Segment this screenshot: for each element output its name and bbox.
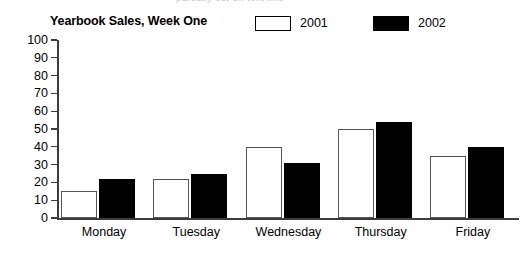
bar-wednesday-2002 xyxy=(284,163,320,218)
bar-friday-2002 xyxy=(468,147,504,218)
bar-tuesday-2002 xyxy=(191,174,227,219)
bar-wednesday-2001 xyxy=(246,147,282,218)
bar-friday-2001 xyxy=(430,156,466,218)
plot-area: 1009080706050403020100 MondayTuesdayWedn… xyxy=(0,0,526,268)
bar-tuesday-2001 xyxy=(153,179,189,218)
bar-chart: partially cut-off text line Yearbook Sal… xyxy=(0,0,526,268)
bar-monday-2002 xyxy=(99,179,135,218)
bar-monday-2001 xyxy=(61,191,97,218)
category-label-wednesday: Wednesday xyxy=(242,225,334,239)
category-label-friday: Friday xyxy=(427,225,519,239)
category-label-tuesday: Tuesday xyxy=(150,225,242,239)
bar-thursday-2001 xyxy=(338,129,374,218)
category-label-monday: Monday xyxy=(58,225,150,239)
bar-thursday-2002 xyxy=(376,122,412,218)
category-label-thursday: Thursday xyxy=(335,225,427,239)
